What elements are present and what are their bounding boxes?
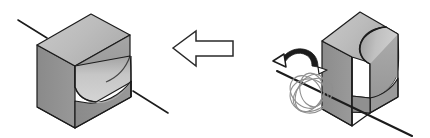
- leader-line-lower: [133, 91, 168, 113]
- transform-arrow[interactable]: [173, 31, 233, 66]
- result-block: [18, 14, 168, 128]
- diagram-canvas: [0, 0, 430, 138]
- diagram-svg: [0, 0, 430, 138]
- leader-line-upper: [18, 20, 47, 38]
- source-block: [322, 12, 399, 126]
- rotation-arrow[interactable]: [273, 49, 327, 74]
